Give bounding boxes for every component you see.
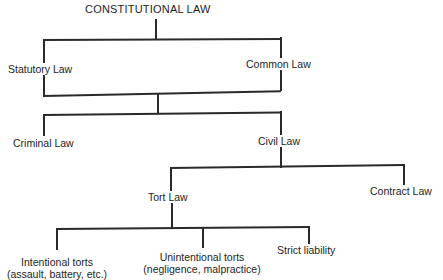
connector-unintentional	[202, 228, 204, 248]
node-strict-liability: Strict liability	[276, 244, 336, 256]
connector-contract	[403, 164, 405, 185]
node-civil-law: Civil Law	[257, 135, 301, 147]
connector-level2-bar	[43, 111, 280, 115]
connector-root-down	[155, 19, 157, 40]
connector-strict	[308, 226, 310, 245]
connector-criminal	[43, 114, 45, 136]
node-criminal-law: Criminal Law	[12, 137, 75, 149]
connector-tort	[170, 168, 172, 191]
connector-intentional	[56, 229, 58, 250]
node-tort-law: Tort Law	[147, 191, 189, 203]
node-contract-law: Contract Law	[369, 185, 433, 197]
node-unintentional-torts-examples: (negligence, malpractice)	[142, 263, 261, 275]
connector-merge-bar	[43, 90, 281, 96]
node-unintentional-torts: Unintentional torts	[159, 251, 246, 263]
law-hierarchy-diagram: CONSTITUTIONAL LAW Statutory Law Common …	[0, 0, 443, 280]
connector-merge-down	[157, 94, 159, 114]
node-intentional-torts-examples: (assault, battery, etc.)	[6, 268, 108, 280]
node-intentional-torts: Intentional torts	[20, 256, 94, 268]
node-statutory-law: Statutory Law	[7, 63, 73, 75]
connector-level3-bar	[170, 163, 404, 168]
connector-level1-bar	[43, 37, 281, 40]
connector-level4-bar	[56, 226, 309, 230]
node-common-law: Common Law	[245, 58, 312, 70]
node-constitutional-law: CONSTITUTIONAL LAW	[84, 3, 212, 15]
